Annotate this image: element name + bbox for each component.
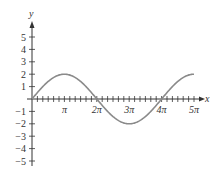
y-tick-label: 1 — [21, 81, 26, 92]
y-tick-label: −5 — [15, 156, 26, 167]
y-tick-label: 5 — [21, 32, 26, 43]
y-tick-label: 4 — [21, 44, 26, 55]
x-tick-label: π — [62, 104, 68, 115]
y-tick-label: −1 — [15, 106, 26, 117]
y-tick-label: 3 — [21, 56, 26, 67]
function-plot: π2π3π4π5π 54321−1−2−3−4−5 x y — [0, 0, 219, 171]
y-axis-arrow-icon — [30, 21, 35, 28]
x-tick-label: 5π — [189, 104, 200, 115]
y-tick-label: −4 — [15, 143, 26, 154]
x-tick-label: 2π — [92, 104, 103, 115]
x-tick-label: 4π — [157, 104, 168, 115]
y-tick-label: 2 — [21, 69, 26, 80]
axes — [27, 21, 205, 166]
y-tick-label: −2 — [15, 118, 26, 129]
x-tick-label: 3π — [123, 104, 135, 115]
y-axis-label: y — [28, 8, 34, 19]
y-tick-label: −3 — [15, 131, 26, 142]
x-axis-label: x — [204, 93, 210, 104]
